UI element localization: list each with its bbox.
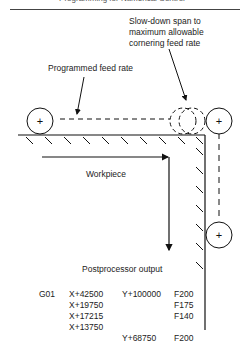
cutter-corner: +: [206, 108, 232, 134]
slowdown-label-line1: Slow-down span to: [129, 16, 201, 27]
slowdown-label-line2: maximum allowable: [129, 27, 204, 38]
code-g-0: G01: [39, 289, 55, 299]
programmed-feed-rate-leader: [77, 77, 84, 114]
cutter-start: +: [27, 108, 53, 134]
code-y-4: Y+68750: [122, 333, 156, 342]
code-x-3: X+13750: [69, 322, 103, 332]
slowdown-leader: [169, 49, 186, 100]
code-f-4: F200: [174, 333, 193, 342]
svg-text:+: +: [216, 115, 222, 127]
code-y-0: Y+100000: [122, 289, 161, 299]
code-f-0: F200: [174, 289, 193, 299]
cutter-end: +: [206, 222, 232, 248]
svg-text:+: +: [216, 229, 222, 241]
programmed-feed-rate-label: Programmed feed rate: [48, 63, 133, 74]
code-f-1: F175: [174, 300, 193, 310]
postprocessor-output-title: Postprocessor output: [82, 264, 162, 275]
code-x-1: X+19750: [69, 300, 103, 310]
slowdown-label-line3: cornering feed rate: [129, 38, 200, 49]
code-x-0: X+42500: [69, 289, 103, 299]
side-wall-hatching: [196, 148, 203, 269]
workpiece-label: Workpiece: [86, 169, 126, 180]
code-f-2: F140: [174, 311, 193, 321]
code-x-2: X+17215: [69, 311, 103, 321]
svg-text:+: +: [37, 115, 43, 127]
top-surface-hatching: [26, 137, 203, 144]
